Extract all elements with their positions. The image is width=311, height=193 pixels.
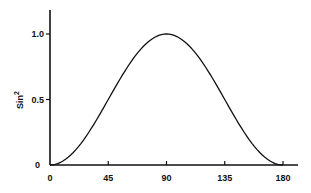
y-axis-label: Sin2 (13, 91, 25, 109)
x-tick-label: 45 (103, 173, 113, 183)
y-tick-label: 0 (35, 160, 40, 170)
y-tick-label: 0.5 (31, 95, 44, 105)
x-tick-label: 90 (161, 173, 171, 183)
x-tick-label: 0 (47, 173, 52, 183)
sin-squared-curve (50, 34, 283, 165)
x-tick-label: 135 (217, 173, 232, 183)
chart: 00.51.0 04590135180 Sin2 (0, 0, 311, 193)
y-ticks: 00.51.0 (31, 29, 50, 170)
x-tick-label: 180 (275, 173, 290, 183)
y-tick-label: 1.0 (31, 29, 44, 39)
